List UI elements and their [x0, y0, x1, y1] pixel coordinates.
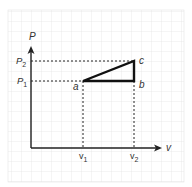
point-a-label: a — [73, 81, 79, 92]
pv-diagram: P v P2 P1 v1 v2 a b c — [0, 0, 192, 187]
point-b-label: b — [139, 79, 145, 90]
y-axis-label: P — [29, 31, 36, 42]
point-c-label: c — [139, 55, 144, 66]
